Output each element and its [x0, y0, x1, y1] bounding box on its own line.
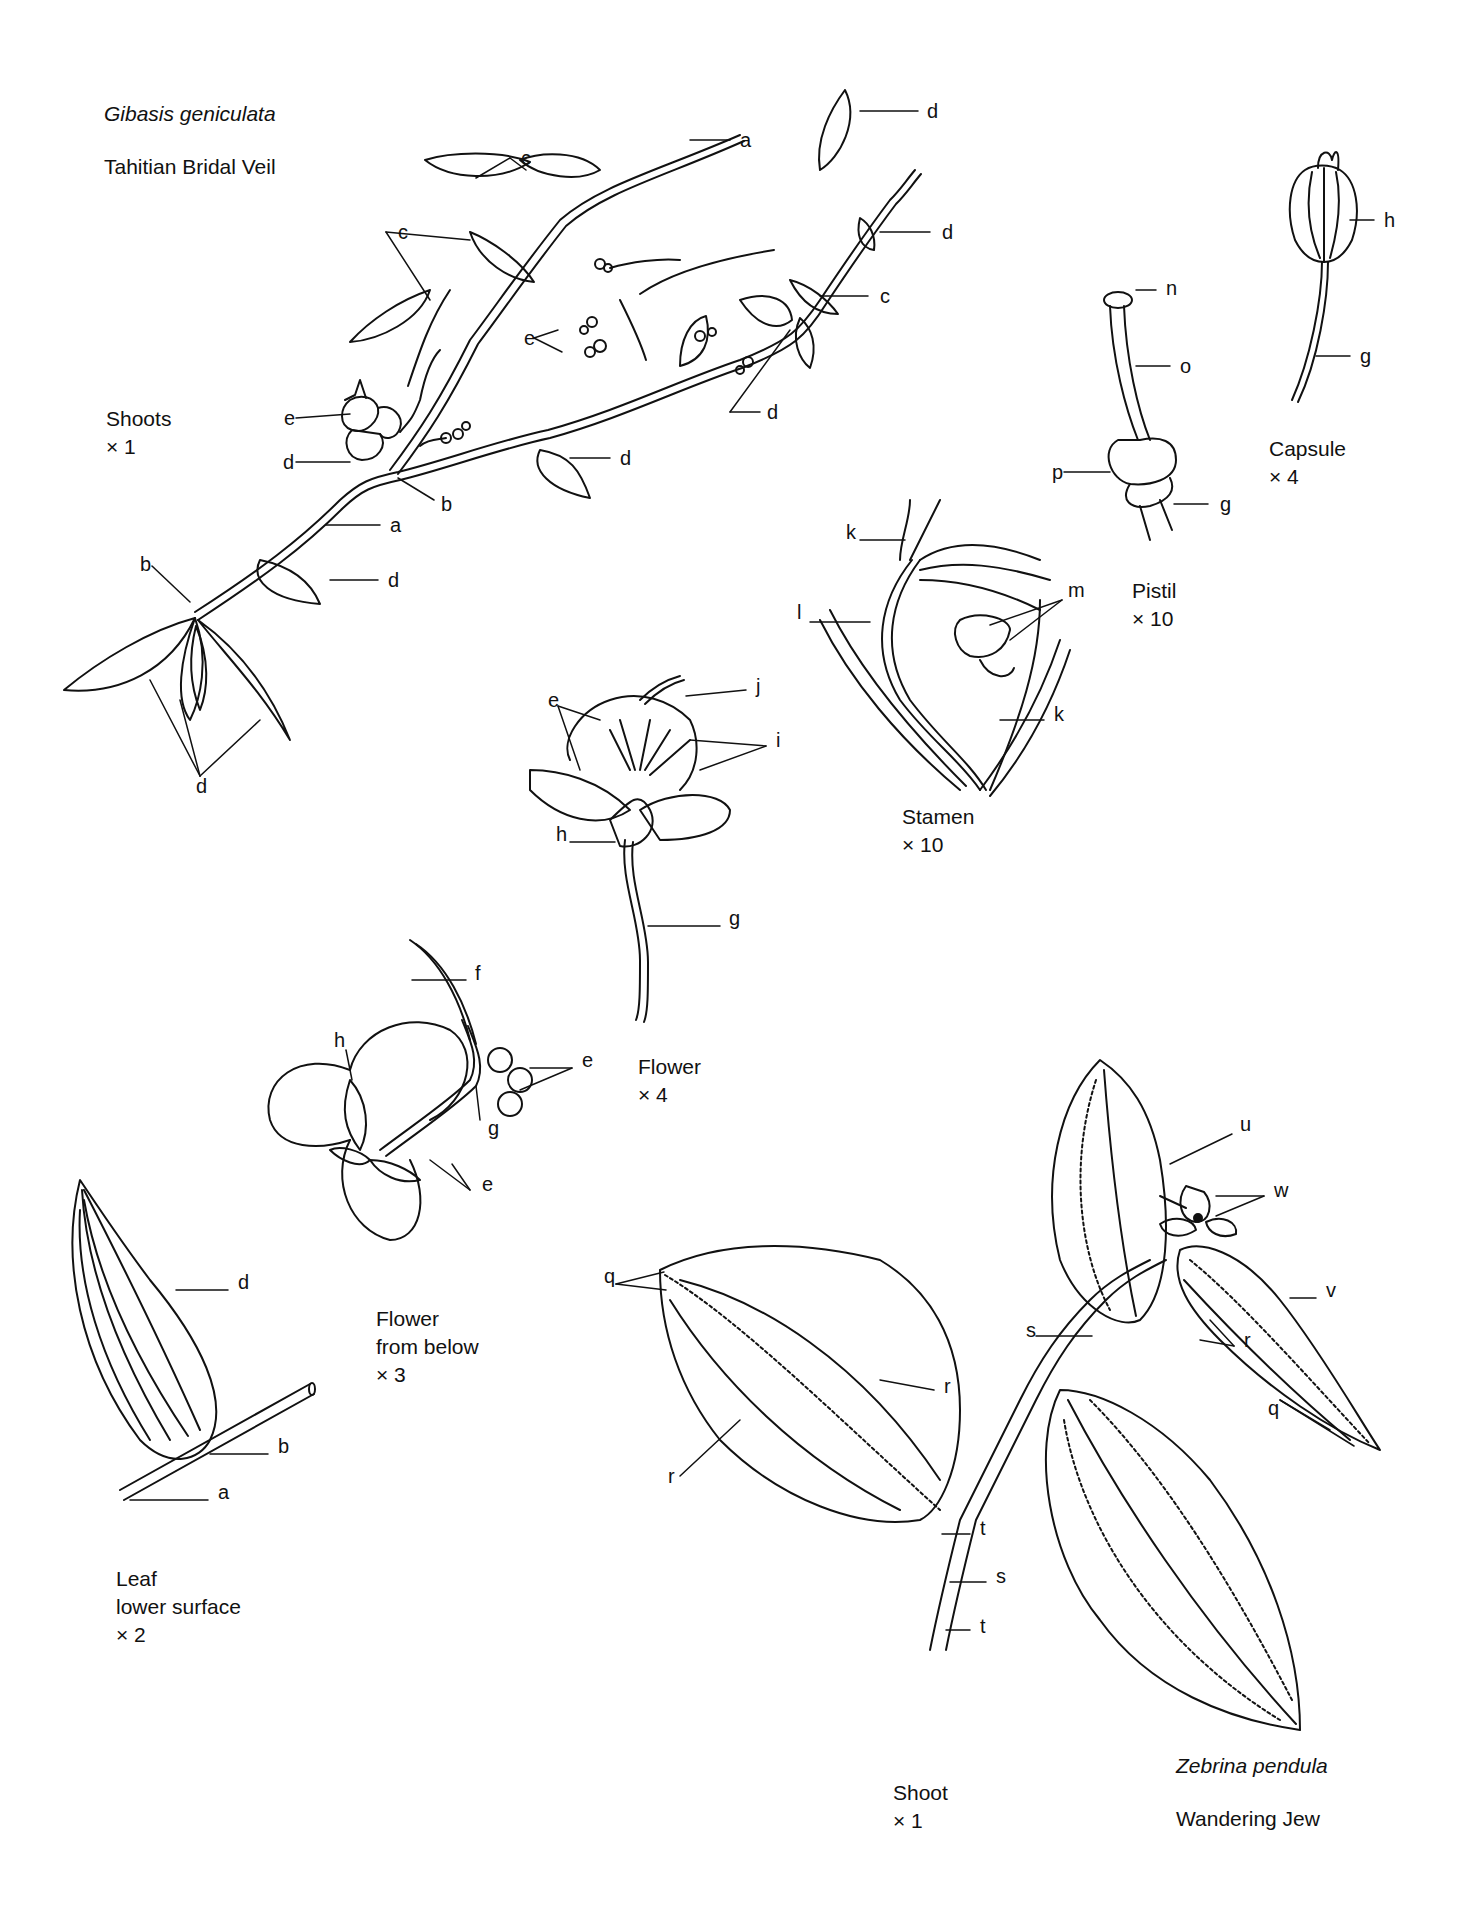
flower-below-figure-title-2: from below [376, 1334, 479, 1360]
callout-letter: e [582, 1050, 593, 1070]
callout-letter: d [196, 776, 207, 796]
flower-from-below-drawing [268, 940, 532, 1240]
capsule-drawing [1290, 152, 1357, 402]
callout-letter: e [548, 690, 559, 710]
pistil-figure-scale: × 10 [1132, 606, 1173, 632]
flower-figure-title: Flower [638, 1054, 701, 1080]
callout-letter: a [218, 1482, 229, 1502]
callout-letter: j [756, 676, 760, 696]
callout-letter: p [1052, 462, 1063, 482]
callout-letter: o [1180, 356, 1191, 376]
callout-letter: b [278, 1436, 289, 1456]
callout-letter: c [398, 222, 408, 242]
gibasis-shoots-drawing [64, 90, 921, 740]
callout-letter: e [284, 408, 295, 428]
callout-letter: s [1026, 1320, 1036, 1340]
callout-letter: i [776, 730, 780, 750]
callout-letter: d [283, 452, 294, 472]
callout-letter: t [980, 1616, 986, 1636]
leaf-figure-scale: × 2 [116, 1622, 146, 1648]
callout-letter: b [140, 554, 151, 574]
callout-letter: g [488, 1118, 499, 1138]
callout-letter: v [1326, 1280, 1336, 1300]
callout-letter: h [334, 1030, 345, 1050]
stamen-figure-scale: × 10 [902, 832, 943, 858]
callout-letter: g [1360, 346, 1371, 366]
callout-letter: d [942, 222, 953, 242]
callout-letter: q [604, 1266, 615, 1286]
callout-letter: c [880, 286, 890, 306]
flower-figure-scale: × 4 [638, 1082, 668, 1108]
pistil-figure-title: Pistil [1132, 578, 1176, 604]
callout-letter: k [846, 522, 856, 542]
callout-letter: d [388, 570, 399, 590]
callout-letter: s [996, 1566, 1006, 1586]
callout-letter: d [927, 101, 938, 121]
zebrina-shoot-drawing [660, 1060, 1380, 1730]
stamen-figure-title: Stamen [902, 804, 974, 830]
leaf-figure-title-1: Leaf [116, 1566, 157, 1592]
callout-letter: r [1244, 1330, 1251, 1350]
flower-below-figure-scale: × 3 [376, 1362, 406, 1388]
capsule-figure-scale: × 4 [1269, 464, 1299, 490]
zebrina-shoot-figure-title: Shoot [893, 1780, 948, 1806]
callout-letter: b [441, 494, 452, 514]
callout-letter: m [1068, 580, 1085, 600]
callout-letter: e [524, 328, 535, 348]
callout-letter: u [1240, 1114, 1251, 1134]
stamen-drawing [820, 500, 1070, 796]
callout-letter: h [556, 824, 567, 844]
callout-letter: e [482, 1174, 493, 1194]
callout-letter: d [238, 1272, 249, 1292]
flower-below-figure-title-1: Flower [376, 1306, 439, 1332]
callout-letter: a [390, 515, 401, 535]
callout-letter: g [1220, 494, 1231, 514]
callout-letter: h [1384, 210, 1395, 230]
callout-letter: n [1166, 278, 1177, 298]
callout-letter: l [797, 602, 801, 622]
callout-letter: r [668, 1466, 675, 1486]
species-2-common-name: Wandering Jew [1176, 1806, 1320, 1832]
species-2-scientific-name: Zebrina pendula [1176, 1753, 1328, 1779]
pistil-drawing [1104, 292, 1176, 540]
callout-letter: f [475, 963, 481, 983]
shoots-figure-scale: × 1 [106, 434, 136, 460]
leaf-figure-title-2: lower surface [116, 1594, 241, 1620]
species-1-common-name: Tahitian Bridal Veil [104, 154, 276, 180]
callout-letter: q [1268, 1398, 1279, 1418]
capsule-figure-title: Capsule [1269, 436, 1346, 462]
flower-drawing [530, 676, 730, 1022]
callout-letter: t [980, 1518, 986, 1538]
callout-letter: c [521, 148, 531, 168]
zebrina-shoot-figure-scale: × 1 [893, 1808, 923, 1834]
callout-letter: d [767, 402, 778, 422]
species-1-scientific-name: Gibasis geniculata [104, 101, 276, 127]
callout-letter: k [1054, 704, 1064, 724]
botanical-plate-drawing [0, 0, 1467, 1921]
callout-letter: r [944, 1376, 951, 1396]
callout-letter: d [620, 448, 631, 468]
shoots-figure-title: Shoots [106, 406, 171, 432]
callout-letter: w [1274, 1180, 1288, 1200]
callout-letter: a [740, 130, 751, 150]
callout-letter: g [729, 908, 740, 928]
